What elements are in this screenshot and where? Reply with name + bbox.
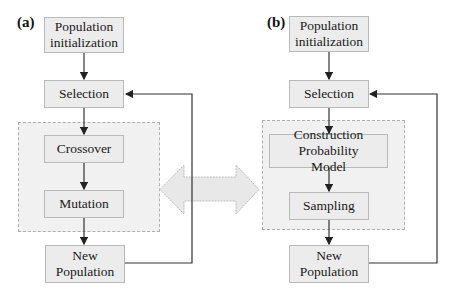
b-selection-node: Selection: [289, 80, 369, 108]
a-mutation-node: Mutation: [44, 190, 124, 218]
b-sampling-node: Sampling: [289, 192, 369, 220]
panel-a-label: (a): [17, 14, 35, 31]
b-population-init-node: Population initialization: [289, 16, 369, 52]
a-population-init-node: Population initialization: [44, 17, 124, 53]
a-selection-node: Selection: [44, 80, 124, 108]
a-crossover-node: Crossover: [44, 135, 124, 163]
panel-b-label: (b): [267, 14, 285, 31]
b-construction-model-node: Construction Probability Model: [269, 134, 388, 168]
b-new-population-node: New Population: [289, 245, 369, 283]
a-new-population-node: New Population: [45, 245, 125, 283]
double-arrow-icon: [160, 165, 259, 214]
